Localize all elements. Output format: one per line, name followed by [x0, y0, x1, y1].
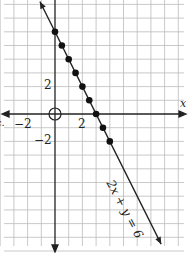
- data-point: [107, 138, 114, 145]
- data-point: [59, 42, 66, 49]
- data-point: [65, 56, 72, 63]
- left-edge-fragment: c.: [0, 118, 5, 128]
- x-tick-pos2: 2: [78, 118, 86, 130]
- x-tick-neg2: −2: [14, 118, 32, 130]
- y-tick-neg2: −2: [34, 134, 52, 146]
- data-point: [79, 83, 86, 90]
- data-point: [72, 70, 79, 77]
- data-point: [100, 124, 107, 131]
- x-axis-label: x: [180, 98, 186, 109]
- x-axis-right-arrow: [179, 111, 186, 117]
- data-point: [52, 29, 59, 36]
- data-point: [93, 111, 100, 118]
- y-tick-pos2: 2: [44, 79, 52, 91]
- equation-line: [40, 2, 161, 244]
- data-point: [86, 97, 93, 104]
